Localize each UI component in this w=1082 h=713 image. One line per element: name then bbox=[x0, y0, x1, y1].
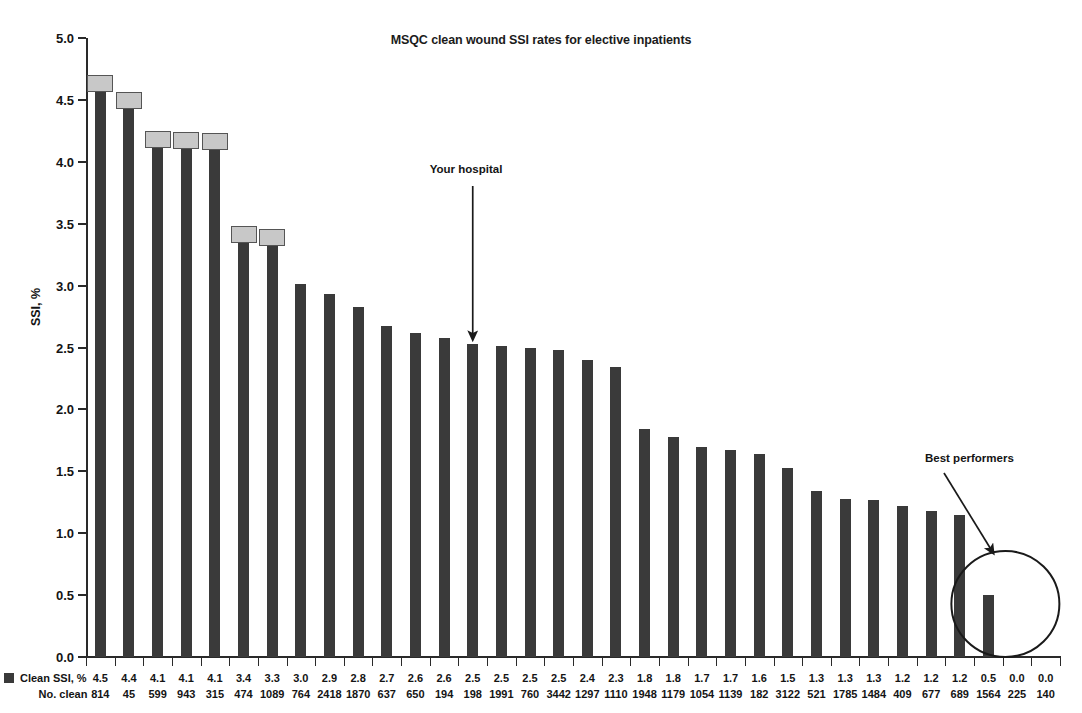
table-cell-rate: 2.5 bbox=[485, 671, 517, 685]
bar[interactable] bbox=[467, 344, 478, 657]
table-cell-rate: 2.5 bbox=[457, 671, 489, 685]
table-cell-count: 1179 bbox=[657, 687, 689, 701]
x-tick-mark bbox=[688, 658, 689, 666]
table-cell-rate: 4.1 bbox=[170, 671, 202, 685]
bar[interactable] bbox=[353, 307, 364, 657]
your-hospital-annotation: Your hospital bbox=[430, 163, 503, 175]
table-cell-rate: 3.3 bbox=[256, 671, 288, 685]
best-performers-annotation: Best performers bbox=[925, 452, 1014, 464]
table-cell-rate: 1.2 bbox=[944, 671, 976, 685]
bar[interactable] bbox=[610, 367, 621, 657]
table-cell-count: 677 bbox=[915, 687, 947, 701]
bar[interactable] bbox=[725, 450, 736, 657]
table-cell-rate: 1.7 bbox=[686, 671, 718, 685]
table-cell-count: 1564 bbox=[972, 687, 1004, 701]
bar[interactable] bbox=[410, 333, 421, 657]
y-tick-label: 2.5 bbox=[26, 342, 74, 355]
bar[interactable] bbox=[209, 148, 220, 657]
x-tick-mark bbox=[1060, 658, 1061, 666]
bar[interactable] bbox=[439, 338, 450, 657]
y-tick-mark bbox=[78, 285, 86, 287]
bar-outlier-cap bbox=[259, 229, 285, 246]
chart-figure: MSQC clean wound SSI rates for elective … bbox=[0, 0, 1082, 713]
bar[interactable] bbox=[181, 147, 192, 657]
table-cell-count: 182 bbox=[743, 687, 775, 701]
bar[interactable] bbox=[983, 595, 994, 657]
bar[interactable] bbox=[811, 491, 822, 657]
y-tick-mark bbox=[78, 594, 86, 596]
table-cell-count: 637 bbox=[371, 687, 403, 701]
y-tick-label: 3.0 bbox=[26, 280, 74, 293]
table-cell-count: 1110 bbox=[600, 687, 632, 701]
table-cell-count: 1089 bbox=[256, 687, 288, 701]
x-tick-mark bbox=[487, 658, 488, 666]
x-tick-mark bbox=[974, 658, 975, 666]
x-tick-mark bbox=[888, 658, 889, 666]
table-cell-rate: 3.0 bbox=[285, 671, 317, 685]
y-tick-mark bbox=[78, 532, 86, 534]
bar[interactable] bbox=[926, 511, 937, 657]
bar[interactable] bbox=[582, 360, 593, 657]
bar[interactable] bbox=[267, 244, 278, 657]
bar[interactable] bbox=[324, 294, 335, 657]
y-tick-label: 2.0 bbox=[26, 403, 74, 416]
y-tick-label: 4.5 bbox=[26, 94, 74, 107]
x-tick-mark bbox=[372, 658, 373, 666]
table-cell-rate: 2.7 bbox=[371, 671, 403, 685]
bar[interactable] bbox=[897, 506, 908, 657]
table-cell-rate: 1.8 bbox=[657, 671, 689, 685]
bar[interactable] bbox=[496, 346, 507, 657]
x-tick-mark bbox=[831, 658, 832, 666]
table-cell-count: 3442 bbox=[543, 687, 575, 701]
table-cell-count: 474 bbox=[228, 687, 260, 701]
bar[interactable] bbox=[152, 146, 163, 657]
data-table: Clean SSI, % 4.54.44.14.14.13.43.33.02.9… bbox=[0, 668, 1082, 713]
table-cell-rate: 1.2 bbox=[915, 671, 947, 685]
bar[interactable] bbox=[754, 454, 765, 657]
y-tick-mark bbox=[78, 37, 86, 39]
bar[interactable] bbox=[381, 326, 392, 657]
bar[interactable] bbox=[868, 500, 879, 657]
x-tick-mark bbox=[229, 658, 230, 666]
bar-outlier-cap bbox=[231, 226, 257, 243]
x-tick-mark bbox=[258, 658, 259, 666]
legend-swatch-clean-ssi bbox=[4, 673, 14, 683]
bar[interactable] bbox=[123, 107, 134, 657]
bar[interactable] bbox=[668, 437, 679, 657]
y-tick-mark bbox=[78, 99, 86, 101]
table-cell-rate: 2.6 bbox=[399, 671, 431, 685]
bar[interactable] bbox=[238, 241, 249, 657]
bar[interactable] bbox=[954, 515, 965, 657]
x-tick-mark bbox=[602, 658, 603, 666]
bar[interactable] bbox=[295, 284, 306, 657]
bar[interactable] bbox=[525, 348, 536, 658]
table-cell-count: 1870 bbox=[342, 687, 374, 701]
table-cell-count: 814 bbox=[84, 687, 116, 701]
table-cell-rate: 2.4 bbox=[571, 671, 603, 685]
bar[interactable] bbox=[782, 468, 793, 657]
table-cell-rate: 0.0 bbox=[1001, 671, 1033, 685]
bar[interactable] bbox=[95, 90, 106, 657]
table-cell-count: 3122 bbox=[772, 687, 804, 701]
x-tick-mark bbox=[401, 658, 402, 666]
table-cell-rate: 2.9 bbox=[314, 671, 346, 685]
y-tick-label: 1.5 bbox=[26, 465, 74, 478]
table-cell-count: 1139 bbox=[715, 687, 747, 701]
table-cell-rate: 4.1 bbox=[199, 671, 231, 685]
y-tick-label: 4.0 bbox=[26, 156, 74, 169]
x-tick-mark bbox=[201, 658, 202, 666]
bar[interactable] bbox=[696, 447, 707, 657]
bar-outlier-cap bbox=[173, 132, 199, 149]
bar[interactable] bbox=[840, 499, 851, 657]
x-tick-mark bbox=[315, 658, 316, 666]
table-cell-rate: 3.4 bbox=[228, 671, 260, 685]
y-tick-label: 0.0 bbox=[26, 651, 74, 664]
table-cell-count: 1991 bbox=[485, 687, 517, 701]
x-tick-mark bbox=[573, 658, 574, 666]
table-cell-rate: 1.6 bbox=[743, 671, 775, 685]
x-tick-mark bbox=[516, 658, 517, 666]
bar[interactable] bbox=[553, 350, 564, 657]
bar[interactable] bbox=[639, 429, 650, 657]
table-cell-count: 2418 bbox=[314, 687, 346, 701]
x-tick-mark bbox=[774, 658, 775, 666]
